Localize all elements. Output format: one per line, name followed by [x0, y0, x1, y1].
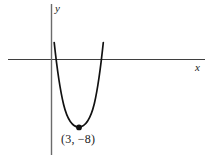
vertex-point-marker — [76, 125, 82, 131]
x-axis-label: x — [195, 62, 200, 73]
plot-canvas — [0, 0, 209, 155]
vertex-coordinate-label: (3, −8) — [61, 133, 95, 145]
parabola-figure: y x (3, −8) — [0, 0, 209, 155]
parabola-curve — [54, 43, 103, 128]
y-axis-label: y — [55, 3, 60, 14]
